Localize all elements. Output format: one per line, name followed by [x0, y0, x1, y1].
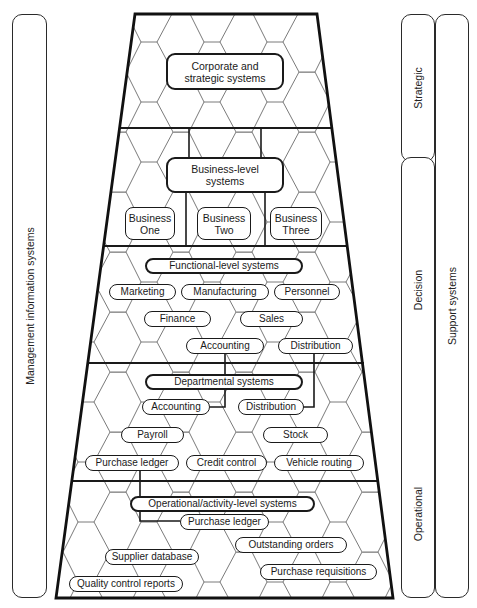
- functional-personnel-pill: Personnel: [274, 284, 340, 300]
- departmental-credit-control-pill: Credit control: [186, 455, 267, 471]
- operational-purchase-requisitions-pill: Purchase requisitions: [260, 564, 377, 580]
- departmental-vehicle-routing-pill: Vehicle routing: [274, 455, 364, 471]
- functional-sales-pill: Sales: [240, 311, 303, 327]
- operational-label: Operational: [412, 486, 424, 540]
- business-level-systems-box: Business-level systems: [166, 157, 284, 193]
- decision-label: Decision: [412, 270, 424, 310]
- support-systems-label: Support systems: [446, 267, 458, 345]
- departmental-payroll-pill: Payroll: [121, 427, 184, 443]
- corporate-strategic-systems-box: Corporate and strategic systems: [166, 53, 284, 90]
- strategic-panel: Strategic: [401, 14, 435, 162]
- functional-manufacturing-pill: Manufacturing: [181, 284, 269, 300]
- business-one-box: Business One: [125, 207, 175, 240]
- operational-quality-control-reports-pill: Quality control reports: [69, 576, 183, 592]
- functional-distribution-pill: Distribution: [278, 338, 353, 354]
- functional-finance-pill: Finance: [144, 311, 211, 327]
- departmental-accounting-pill: Accounting: [142, 399, 210, 415]
- management-information-systems-panel: Management information systems: [12, 14, 47, 598]
- support-systems-panel: Support systems: [435, 14, 469, 598]
- functional-marketing-pill: Marketing: [109, 284, 176, 300]
- departmental-purchase-ledger-pill: Purchase ledger: [85, 455, 179, 471]
- mis-label: Management information systems: [24, 227, 36, 385]
- departmental-stock-pill: Stock: [263, 427, 328, 443]
- strategic-label: Strategic: [412, 67, 424, 108]
- business-three-box: Business Three: [270, 207, 322, 240]
- departmental-systems-pill: Departmental systems: [145, 374, 303, 390]
- business-two-box: Business Two: [197, 207, 251, 240]
- departmental-distribution-pill: Distribution: [238, 399, 304, 415]
- decision-operational-panel: Decision Operational: [401, 157, 435, 598]
- functional-accounting-pill: Accounting: [186, 338, 264, 354]
- operational-activity-level-systems-pill: Operational/activity-level systems: [130, 496, 315, 512]
- functional-level-systems-pill: Functional-level systems: [145, 258, 303, 274]
- operational-supplier-database-pill: Supplier database: [105, 549, 199, 565]
- operational-outstanding-orders-pill: Outstanding orders: [235, 537, 347, 553]
- operational-purchase-ledger-pill: Purchase ledger: [180, 514, 269, 530]
